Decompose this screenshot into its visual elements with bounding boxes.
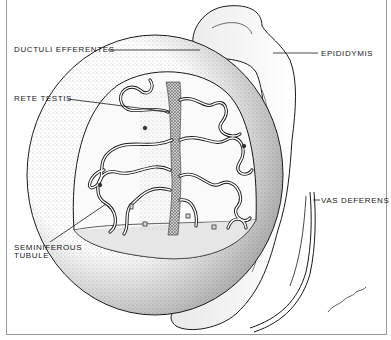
label-rete-testis: RETE TESTIS bbox=[14, 94, 72, 103]
label-ductuli-efferentes: DUCTULI EFFERENTES bbox=[14, 45, 115, 54]
label-seminiferous-line2: TUBULE bbox=[14, 251, 49, 260]
label-vas-deferens: VAS DEFERENS bbox=[321, 196, 389, 205]
artist-signature bbox=[328, 287, 366, 312]
label-epididymis: EPIDIDYMIS bbox=[321, 49, 373, 58]
